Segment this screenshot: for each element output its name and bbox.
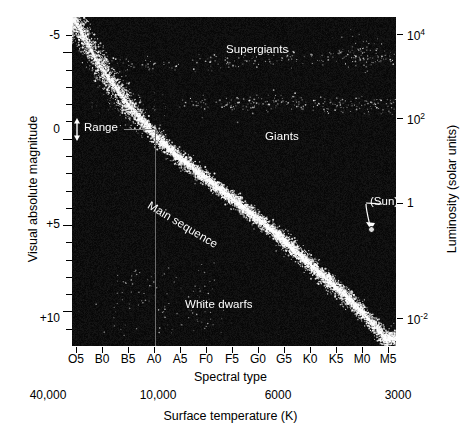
temperature-label-3: 3000 (363, 388, 433, 402)
lum-tick-label-1e4: 104 (407, 27, 425, 43)
hr-diagram-plot-area: Supergiants Giants Main sequence White d… (72, 17, 396, 346)
y-tick-label-minus5: -5 (18, 28, 60, 42)
y-tick--3 (66, 87, 72, 88)
sun-label: (Sun) (370, 195, 396, 207)
y-tick-10 (63, 311, 72, 312)
lum-tick-1e-2 (397, 318, 403, 319)
sun-annotation: (Sun) (324, 195, 396, 231)
x-axis-title-temperature: Surface temperature (K) (0, 409, 461, 423)
y-tick-1 (66, 156, 72, 157)
lum-tick-label-1e-2: 10-2 (407, 311, 428, 327)
temperature-label-2: 6000 (243, 388, 313, 402)
y-tick-7 (66, 260, 72, 261)
y-tick-3 (66, 191, 72, 192)
range-label: Range (84, 121, 118, 133)
y-tick-0 (63, 139, 72, 140)
y-tick--6 (66, 35, 72, 36)
star-field-canvas (72, 17, 396, 346)
y-tick-5 (63, 225, 72, 226)
y-tick-11 (66, 329, 72, 330)
label-supergiants: Supergiants (226, 43, 288, 55)
y-tick-6 (66, 242, 72, 243)
y-tick--2 (66, 104, 72, 105)
y-tick-label-plus5: +5 (18, 217, 60, 231)
y-tick-8 (66, 277, 72, 278)
label-white-dwarfs: White dwarfs (185, 298, 253, 310)
y-tick-label-0: 0 (18, 122, 60, 136)
reference-line-vertical-a0 (155, 129, 156, 346)
sun-marker (368, 226, 375, 233)
x-axis-title-spectral: Spectral type (0, 370, 461, 384)
lum-tick-1e4 (397, 34, 403, 35)
lum-tick-1e2 (397, 118, 403, 119)
y-tick--4 (66, 70, 72, 71)
temperature-label-1: 10,000 (123, 388, 193, 402)
y-axis-right-title: Luminosity (solar units) (445, 104, 459, 274)
x-tick-label-M5: M5 (368, 352, 408, 366)
lum-tick-label-1: 1 (407, 196, 414, 210)
lum-tick-label-1e2: 102 (407, 111, 425, 127)
y-tick--1 (66, 121, 72, 122)
lum-tick-1 (397, 203, 403, 204)
y-tick-4 (66, 208, 72, 209)
y-tick-2 (66, 173, 72, 174)
y-tick--5 (63, 52, 72, 53)
temperature-label-0: 40,000 (13, 388, 83, 402)
label-giants: Giants (265, 130, 299, 142)
range-annotation: Range (72, 117, 170, 141)
y-tick-label-plus10: +10 (18, 311, 60, 325)
y-tick-9 (66, 294, 72, 295)
